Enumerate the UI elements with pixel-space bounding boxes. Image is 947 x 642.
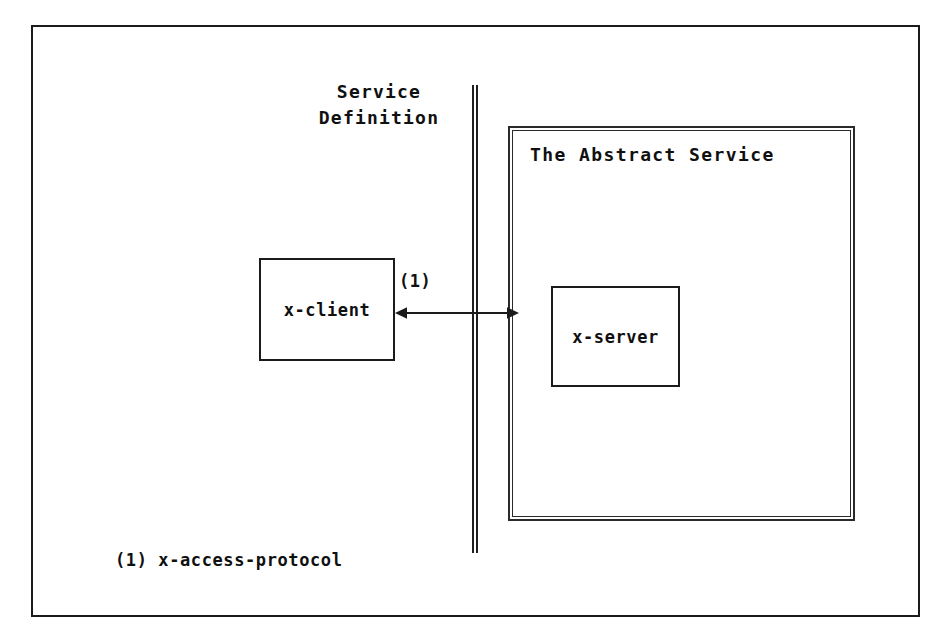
- entity-box-x-server: x-server: [551, 286, 680, 387]
- entity-box-x-client: x-client: [259, 258, 395, 361]
- protocol-reference-marker: (1): [399, 271, 431, 291]
- service-definition-label: Service Definition: [291, 79, 467, 131]
- x-access-protocol-arrow: [395, 302, 519, 324]
- diagram-canvas: Service Definition The Abstract Service …: [0, 0, 947, 642]
- legend-entry-x-access-protocol: (1) x-access-protocol: [115, 550, 343, 570]
- entity-label-x-server: x-server: [572, 327, 659, 347]
- figure-frame: Service Definition The Abstract Service …: [31, 25, 920, 617]
- abstract-service-region: The Abstract Service x-server: [508, 126, 855, 521]
- entity-label-x-client: x-client: [284, 300, 371, 320]
- abstract-service-title: The Abstract Service: [530, 144, 775, 165]
